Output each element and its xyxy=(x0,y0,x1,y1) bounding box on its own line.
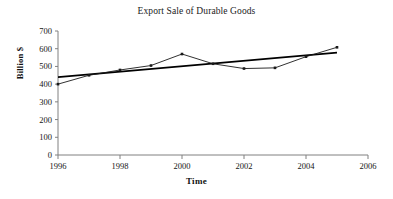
svg-text:400: 400 xyxy=(39,79,52,89)
x-axis-label: Time xyxy=(0,176,393,186)
svg-text:700: 700 xyxy=(39,26,52,36)
y-axis-ticks: 0100200300400500600700 xyxy=(39,26,58,160)
svg-text:0: 0 xyxy=(48,150,52,160)
svg-text:300: 300 xyxy=(39,97,52,107)
svg-text:2004: 2004 xyxy=(298,161,316,171)
data-series-line xyxy=(58,47,337,84)
chart-figure: Export Sale of Durable Goods Billion $ 0… xyxy=(0,0,393,199)
svg-text:1998: 1998 xyxy=(112,161,129,171)
svg-text:2002: 2002 xyxy=(236,161,253,171)
svg-text:500: 500 xyxy=(39,61,52,71)
svg-text:600: 600 xyxy=(39,44,52,54)
svg-text:200: 200 xyxy=(39,115,52,125)
svg-text:2006: 2006 xyxy=(360,161,377,171)
data-point-markers xyxy=(57,46,339,85)
svg-text:100: 100 xyxy=(39,132,52,142)
x-axis-ticks: 199619982000200220042006 xyxy=(50,155,377,171)
svg-text:2000: 2000 xyxy=(174,161,191,171)
plot-area: 0100200300400500600700 19961998200020022… xyxy=(0,0,393,199)
svg-text:1996: 1996 xyxy=(50,161,67,171)
